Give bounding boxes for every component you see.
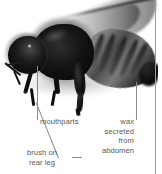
label-rear-leg-brush: brush on rear leg <box>14 148 70 167</box>
label-rear-leg-brush-line1: brush on <box>27 148 57 157</box>
leader-line-rear-leg-elbow <box>72 157 82 158</box>
label-rear-leg-brush-line2: rear leg <box>29 158 55 167</box>
label-wax-line2: secreted <box>104 127 134 136</box>
label-wax-line4: abdomen <box>102 146 134 155</box>
bee-anatomy-figure: mouthparts brush on rear leg wax secrete… <box>0 0 162 174</box>
label-mouthparts: mouthparts <box>40 117 79 127</box>
label-wax-line1: wax <box>120 117 134 126</box>
eye-highlight <box>27 44 32 48</box>
leader-line-mouthparts <box>37 66 38 120</box>
bee-photograph <box>0 0 158 118</box>
leader-line-abdomen <box>136 82 137 120</box>
column-rule <box>155 0 156 174</box>
label-wax-line3: from <box>119 136 134 145</box>
label-wax-secreted: wax secreted from abdomen <box>84 117 134 155</box>
